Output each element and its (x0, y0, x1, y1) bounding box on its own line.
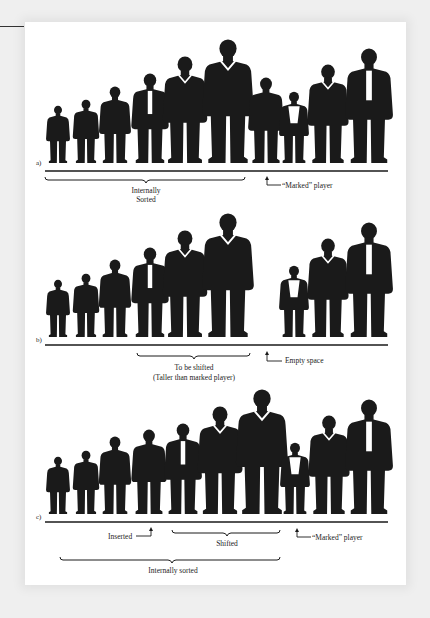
panel-label-a: a) (36, 159, 42, 167)
player-silhouette (202, 213, 254, 337)
player-silhouette (248, 78, 284, 163)
panel-c: c) Inserted Shifted “Marked” player Inte… (36, 389, 393, 575)
players-row-c (46, 389, 393, 514)
player-silhouette (345, 399, 393, 514)
insertion-sort-diagram: a) Internally Sorted “Marked” player b) … (0, 0, 430, 618)
panel-b: b) To be shifted (Taller than marked pla… (36, 213, 393, 382)
player-silhouette (279, 92, 309, 163)
brace-internally-sorted-a (45, 177, 245, 183)
player-silhouette (163, 230, 208, 337)
player-silhouette (236, 389, 288, 514)
brace-internally-sorted-c (60, 557, 280, 563)
panel-a: a) Internally Sorted “Marked” player (36, 39, 393, 204)
players-row-a (46, 39, 393, 163)
inserted-arrow-c (136, 527, 153, 536)
player-silhouette (345, 48, 393, 163)
brace-label-line2-a: Sorted (136, 195, 156, 204)
brace-label-line1-b: To be shifted (174, 363, 213, 372)
player-silhouette (99, 87, 131, 163)
player-silhouette (307, 239, 348, 337)
player-silhouette (164, 424, 202, 514)
player-silhouette (46, 106, 70, 163)
player-silhouette (307, 65, 348, 163)
internally-sorted-label-c: Internally sorted (148, 566, 198, 575)
player-silhouette (345, 222, 393, 337)
player-silhouette (73, 100, 99, 163)
player-silhouette (279, 266, 309, 337)
empty-space-arrow-b (265, 351, 282, 361)
empty-space-label-b: Empty space (285, 356, 324, 365)
player-silhouette (163, 56, 208, 163)
marked-player-label-a: “Marked” player (282, 181, 333, 190)
brace-shifted-c (172, 530, 280, 536)
panel-label-b: b) (36, 336, 43, 344)
inserted-label-c: Inserted (108, 532, 132, 541)
brace-label-line2-b: (Taller than marked player) (153, 373, 236, 382)
brace-label-line1-a: Internally (131, 186, 160, 195)
player-silhouette (73, 274, 99, 337)
shifted-label-c: Shifted (216, 539, 238, 548)
marked-arrow-c (295, 528, 311, 537)
panel-label-c: c) (36, 513, 42, 521)
marked-player-label-c: “Marked” player (312, 533, 363, 542)
player-silhouette (99, 260, 131, 337)
brace-to-be-shifted-b (137, 353, 250, 359)
player-silhouette (73, 451, 99, 514)
players-row-b (46, 213, 393, 337)
player-silhouette (46, 457, 70, 514)
player-silhouette (131, 430, 166, 514)
player-silhouette (198, 406, 243, 514)
player-silhouette (308, 416, 349, 514)
marked-arrow-a (265, 176, 281, 185)
player-silhouette (99, 437, 131, 514)
player-silhouette (46, 280, 70, 337)
player-silhouette (202, 39, 254, 163)
